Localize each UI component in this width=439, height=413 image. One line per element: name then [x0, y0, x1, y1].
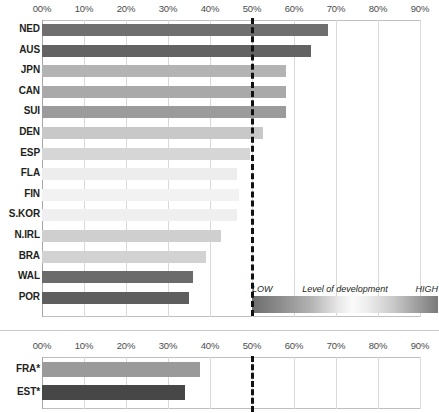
category-label-por: POR	[0, 291, 40, 302]
category-label-wal: WAL	[0, 270, 40, 281]
reference-line-50-main	[251, 18, 254, 316]
x-tick-90: 90%	[411, 340, 429, 351]
bar-den	[42, 127, 263, 139]
category-label-can: CAN	[0, 85, 40, 96]
bar-fill	[42, 106, 286, 118]
x-tick-40: 40%	[201, 340, 219, 351]
bar-fill	[42, 86, 286, 98]
gridline-70	[336, 20, 337, 317]
category-label-esp: ESP	[0, 147, 40, 158]
bar-aus	[42, 45, 311, 57]
bar-nirl	[42, 230, 221, 242]
x-tick-70: 70%	[327, 3, 345, 14]
axis-top-line	[42, 20, 420, 21]
bar-fill	[42, 127, 263, 139]
bar-skor	[42, 209, 237, 221]
category-label-ned: NED	[0, 23, 40, 34]
reference-line-50-secondary	[251, 356, 254, 412]
category-label-fla: FLA	[0, 167, 40, 178]
x-tick-60: 60%	[285, 340, 303, 351]
axis-top-line-secondary	[42, 357, 420, 358]
axis-bottom-line-secondary	[42, 408, 420, 409]
gridline-60	[294, 20, 295, 317]
category-label-skor: S.KOR	[0, 208, 40, 219]
x-tick-90: 90%	[411, 3, 429, 14]
x-tick-50: 50%	[243, 340, 261, 351]
x-tick-10: 10%	[75, 3, 93, 14]
legend-gradient-bar	[252, 296, 438, 313]
bar-ned	[42, 24, 328, 36]
category-label-jpn: JPN	[0, 64, 40, 75]
bar-fill	[42, 209, 237, 221]
bar-fill	[42, 24, 328, 36]
x-tick-80: 80%	[369, 3, 387, 14]
bar-fin	[42, 189, 239, 201]
x-tick-10: 10%	[75, 340, 93, 351]
bar-fill	[42, 45, 311, 57]
x-tick-50: 50%	[243, 3, 261, 14]
bar-fill	[42, 292, 189, 304]
x-tick-70: 70%	[327, 340, 345, 351]
category-label-aus: AUS	[0, 44, 40, 55]
x-tick-30: 30%	[159, 3, 177, 14]
bar-wal	[42, 271, 193, 283]
gridline-60	[294, 357, 295, 409]
bar-fill	[42, 65, 286, 77]
x-tick-60: 60%	[285, 3, 303, 14]
axis-bottom-line	[42, 316, 420, 317]
category-label-est: EST*	[0, 386, 40, 397]
bar-jpn	[42, 65, 286, 77]
bar-fla	[42, 168, 237, 180]
bar-est	[42, 385, 185, 400]
x-tick-0: 00%	[33, 340, 51, 351]
x-tick-80: 80%	[369, 340, 387, 351]
legend-low-label: LOW	[252, 284, 273, 294]
panel-separator	[0, 330, 439, 331]
category-label-sui: SUI	[0, 105, 40, 116]
gridline-70	[336, 357, 337, 409]
bar-sui	[42, 106, 286, 118]
bar-fill	[42, 230, 221, 242]
bar-fill	[42, 148, 250, 160]
gridline-90	[420, 357, 421, 409]
x-tick-20: 20%	[117, 3, 135, 14]
category-label-den: DEN	[0, 126, 40, 137]
bar-fill	[42, 362, 200, 377]
category-label-fra: FRA*	[0, 363, 40, 374]
bar-can	[42, 86, 286, 98]
x-tick-30: 30%	[159, 340, 177, 351]
x-axis-tick-labels-top: 00%10%20%30%40%50%60%70%80%90%	[0, 3, 439, 17]
x-tick-0: 00%	[33, 3, 51, 14]
category-label-fin: FIN	[0, 188, 40, 199]
bar-fill	[42, 271, 193, 283]
bar-fra	[42, 362, 200, 377]
gridline-80	[378, 357, 379, 409]
bar-fill	[42, 189, 239, 201]
gridline-90	[420, 20, 421, 317]
legend-title: Level of development	[302, 284, 388, 294]
legend-high-label: HIGH	[416, 284, 439, 294]
bar-fill	[42, 251, 206, 263]
legend-gradient: LOW Level of development HIGH	[252, 296, 438, 313]
category-label-nirl: N.IRL	[0, 229, 40, 240]
bar-esp	[42, 148, 250, 160]
bar-fill	[42, 168, 237, 180]
gridline-80	[378, 20, 379, 317]
x-tick-20: 20%	[117, 340, 135, 351]
category-label-bra: BRA	[0, 250, 40, 261]
bar-por	[42, 292, 189, 304]
bar-bra	[42, 251, 206, 263]
bar-fill	[42, 385, 185, 400]
x-tick-40: 40%	[201, 3, 219, 14]
gridline-40	[210, 357, 211, 409]
x-axis-tick-labels-bottom: 00%10%20%30%40%50%60%70%80%90%	[0, 340, 439, 354]
